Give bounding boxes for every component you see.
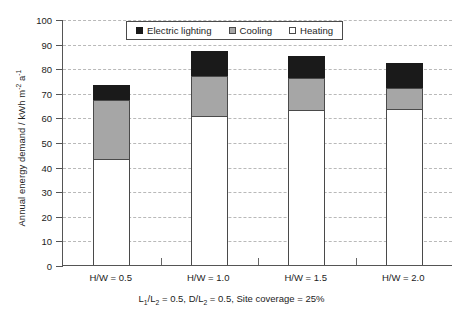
y-axis-tick [56, 266, 63, 267]
bar-segment-cooling [288, 78, 325, 110]
y-axis-tick-label: 0 [47, 261, 52, 272]
y-axis-tick [56, 143, 63, 144]
bar-segment-cooling [191, 76, 228, 117]
y-axis-title-exp-area: -2 [15, 84, 22, 90]
bar-stack [191, 51, 228, 265]
legend-item-cooling: Cooling [229, 25, 273, 36]
chart-caption: L1/L2 = 0.5, D/L2 = 0.5, Site coverage =… [0, 293, 463, 306]
y-axis-tick-label: 20 [41, 211, 52, 222]
legend-label-heating: Heating [300, 25, 333, 36]
y-axis-tick-label: 80 [41, 64, 52, 75]
x-axis-tick-label: H/W = 1.5 [285, 272, 328, 283]
legend-swatch-cooling [229, 27, 236, 34]
legend-item-heating: Heating [289, 25, 333, 36]
caption-part-2: /L [148, 293, 156, 304]
y-axis-tick-label: 60 [41, 113, 52, 124]
y-axis-tick-label: 100 [36, 15, 52, 26]
y-axis-tick [56, 192, 63, 193]
bar-segment-electric-lighting [191, 51, 228, 76]
y-axis-tick-label: 40 [41, 162, 52, 173]
legend-swatch-heating [289, 27, 296, 34]
bar-stack [386, 63, 423, 265]
y-axis-title-main: Annual energy demand / kWh m [16, 90, 27, 227]
y-axis-tick-label: 10 [41, 236, 52, 247]
bar-segment-electric-lighting [93, 85, 130, 100]
x-axis-tick-label: H/W = 1.0 [187, 272, 230, 283]
x-axis-tick-label: H/W = 0.5 [90, 272, 133, 283]
chart-legend: Electric lighting Cooling Heating [126, 21, 343, 40]
y-axis-tick [56, 69, 63, 70]
legend-label-cooling: Cooling [240, 25, 273, 36]
y-axis-tick [56, 168, 63, 169]
y-gridline [63, 45, 452, 46]
y-axis-tick-label: 30 [41, 187, 52, 198]
caption-part-3: = 0.5, D/L [159, 293, 203, 304]
bar-segment-electric-lighting [386, 63, 423, 88]
bar-segment-cooling [386, 88, 423, 109]
y-axis-title-exp-annum: -1 [15, 70, 22, 76]
y-axis-tick [56, 217, 63, 218]
bar-segment-cooling [93, 100, 130, 159]
bar-segment-electric-lighting [288, 56, 325, 78]
legend-item-electric-lighting: Electric lighting [136, 25, 212, 36]
y-axis-tick [56, 241, 63, 242]
y-axis-tick-label: 50 [41, 138, 52, 149]
bar-segment-heating [191, 116, 228, 265]
bar-segment-heating [93, 159, 130, 265]
x-axis-category-separator [258, 258, 259, 265]
plot-area: 0102030405060708090100 [62, 20, 452, 266]
x-axis-tick-label: H/W = 2.0 [382, 272, 425, 283]
y-axis-tick-label: 90 [41, 39, 52, 50]
y-axis-tick [56, 118, 63, 119]
caption-part-4: = 0.5, Site coverage = 25% [207, 293, 324, 304]
y-axis-tick [56, 20, 63, 21]
y-axis-title-mid: a [16, 76, 27, 84]
y-axis-tick [56, 45, 63, 46]
y-axis-title: Annual energy demand / kWh m-2 a-1 [15, 23, 27, 273]
x-axis-category-separator [161, 258, 162, 265]
chart-figure: Annual energy demand / kWh m-2 a-1 01020… [0, 0, 463, 322]
x-axis-category-separator [356, 258, 357, 265]
legend-swatch-electric-lighting [136, 27, 143, 34]
bar-segment-heating [288, 110, 325, 265]
y-axis-tick [56, 94, 63, 95]
bar-stack [93, 85, 130, 265]
legend-label-electric-lighting: Electric lighting [147, 25, 212, 36]
bar-segment-heating [386, 109, 423, 265]
y-axis-tick-label: 70 [41, 88, 52, 99]
bar-stack [288, 56, 325, 265]
